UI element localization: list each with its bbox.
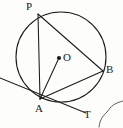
centre-dot [57,56,61,60]
point-label-O: O [63,52,71,63]
point-label-T: T [84,109,91,120]
tangent-line-AT [0,78,86,113]
geometry-figure: P O B A T [0,0,123,128]
chord-AB [40,71,103,99]
geometry-canvas [0,0,123,128]
point-label-B: B [106,64,113,75]
point-label-A: A [35,103,43,114]
radius-AO [40,60,58,99]
point-label-P: P [26,1,32,12]
ink-squiggle-artifact [99,101,123,127]
main-circle [16,12,106,102]
chord-PA [38,14,40,99]
